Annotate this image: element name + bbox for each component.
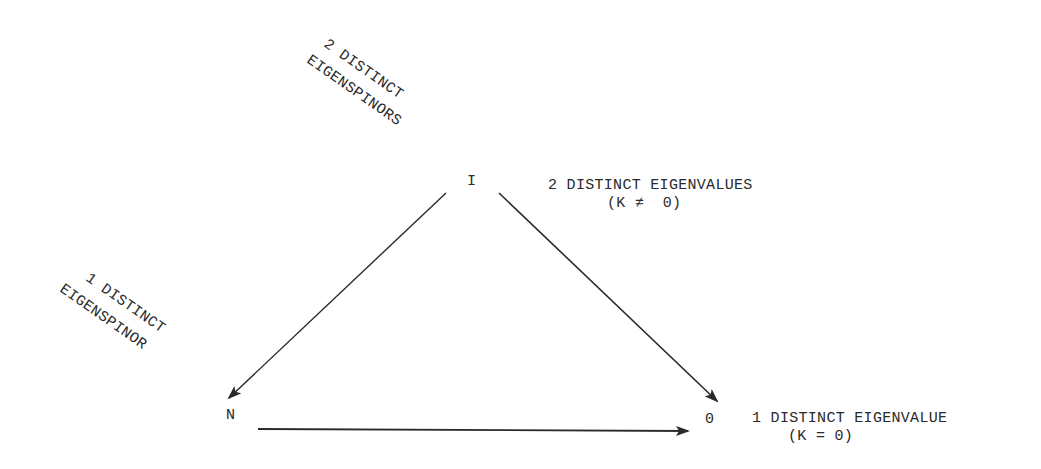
label-two-eigenvalues-line1: 2 DISTINCT EIGENVALUES — [548, 177, 753, 194]
node-n: N — [226, 407, 235, 424]
arrow-i-to-n — [229, 193, 446, 398]
arrow-i-to-o — [499, 193, 717, 401]
diagram-canvas: I N 0 2 DISTINCT EIGENSPINORS 1 DISTINCT… — [0, 0, 1041, 469]
arrows-layer — [0, 0, 1041, 469]
label-one-eigenvalue-line1: 1 DISTINCT EIGENVALUE — [752, 410, 947, 427]
node-o: 0 — [705, 411, 714, 428]
label-two-eigenvalues-line2: (K ≠ 0) — [607, 195, 681, 212]
label-one-eigenvalue-line2: (K = 0) — [788, 428, 853, 445]
node-i: I — [467, 173, 476, 190]
arrow-n-to-o — [258, 429, 688, 431]
